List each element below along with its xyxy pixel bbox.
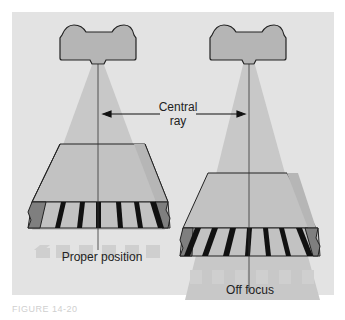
right-setup	[180, 25, 320, 300]
proper-position-label: Proper position	[52, 250, 152, 264]
central-ray-label-line1: Central	[155, 100, 201, 114]
off-focus-label: Off focus	[215, 283, 285, 297]
central-ray-label-line2: ray	[155, 114, 201, 128]
figure-caption: FIGURE 14-20	[12, 304, 78, 314]
left-setup	[28, 25, 170, 258]
grid-focus-diagram	[0, 0, 345, 320]
central-ray-label: Central ray	[155, 100, 201, 128]
